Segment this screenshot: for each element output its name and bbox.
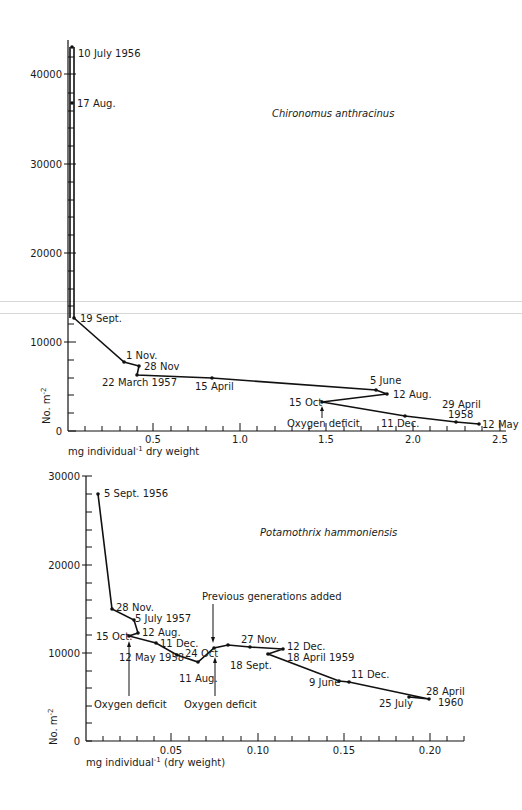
point-label: 19 Sept.: [80, 313, 122, 324]
chart-title: Potamothrix hammoniensis: [260, 527, 397, 538]
x-tick-label: 0.10: [247, 745, 269, 756]
chart-chironomus: 0 10000 20000 30000 40000: [30, 40, 518, 457]
y-tick-label: 0: [74, 736, 80, 747]
point-label: 12 Aug.: [142, 627, 181, 638]
point-label: 12 Aug.: [393, 389, 432, 400]
point-label: 15 Oct: [289, 397, 322, 408]
y-axis-label: No. m-2: [47, 708, 59, 745]
y-tick-label: 30000: [30, 159, 62, 170]
point-label: 24 Oct: [185, 648, 218, 659]
x-tick-label: 1.0: [232, 434, 248, 445]
point-label: 1960: [438, 697, 463, 708]
y-tick-label: 10000: [30, 337, 62, 348]
series-line: [74, 318, 479, 424]
point-label: 15 April: [195, 381, 234, 392]
point-label: 18 Sept.: [230, 660, 272, 671]
chart-title: Chironomus anthracinus: [272, 108, 394, 119]
x-ticks: [103, 733, 464, 741]
annotation-oxygen-deficit: Oxygen deficit: [287, 418, 360, 429]
x-tick-label: 0.15: [333, 745, 355, 756]
x-tick-label: 1.5: [318, 434, 334, 445]
x-axis-label: mg individual-1 dry weight: [68, 445, 199, 457]
point-label: 5 June: [370, 375, 401, 386]
point-label: 28 April: [426, 686, 465, 697]
y-tick-label: 30000: [48, 471, 80, 482]
point-label: 5 Sept. 1956: [104, 488, 168, 499]
point-label: 5 July 1957: [135, 613, 191, 624]
chart-potamothrix: 0 10000 20000 30000: [47, 471, 465, 768]
annotation-oxygen-deficit: Oxygen deficit: [184, 699, 257, 710]
y-tick-label: 10000: [48, 648, 80, 659]
annotation-previous-generations: Previous generations added: [202, 591, 342, 602]
point-label: 12 Dec.: [287, 641, 325, 652]
point-label: 27 Nov.: [241, 634, 279, 645]
x-tick-label: 0.20: [419, 745, 441, 756]
x-tick-label: 0.05: [160, 745, 182, 756]
y-tick-label: 20000: [30, 248, 62, 259]
y-axis-label: No. m-2: [40, 387, 52, 424]
x-tick-label: 2.0: [405, 434, 421, 445]
data-points: [70, 45, 481, 426]
point-label: 28 Nov.: [116, 602, 154, 613]
point-label: 11 Dec.: [351, 669, 389, 680]
point-label: 12 May: [482, 419, 519, 430]
point-label: 22 March 1957: [102, 377, 177, 388]
point-label: 1958: [448, 409, 473, 420]
x-axis-label: mg individual-1 (dry weight): [86, 756, 225, 768]
point-label: 9 June: [309, 677, 340, 688]
point-label: 17 Aug.: [77, 98, 116, 109]
point-label: 25 July: [379, 698, 413, 709]
point-label: 28 Nov: [144, 361, 180, 372]
point-label: 18 April 1959: [287, 652, 354, 663]
figure: 0 10000 20000 30000 40000: [0, 0, 522, 810]
point-label: 11 Aug.: [179, 673, 218, 684]
x-tick-label: 2.5: [492, 434, 508, 445]
arrow-head-icon: [211, 637, 215, 643]
y-tick-label: 20000: [48, 560, 80, 571]
y-tick-label: 0: [56, 426, 62, 437]
point-label: 11 Dec.: [381, 418, 419, 429]
point-label: 1 Nov.: [126, 350, 157, 361]
x-tick-label: 0.5: [145, 434, 161, 445]
point-label: 10 July 1956: [78, 48, 141, 59]
y-ticks: [82, 476, 92, 741]
y-tick-label: 40000: [30, 69, 62, 80]
point-label: 15 Oct.: [96, 631, 132, 642]
annotation-oxygen-deficit: Oxygen deficit: [94, 699, 167, 710]
